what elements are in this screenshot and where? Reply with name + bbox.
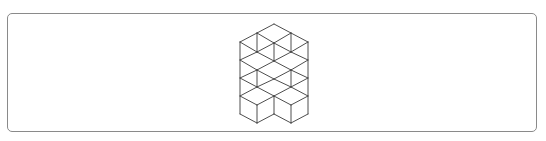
cube-edge	[257, 96, 274, 105]
cube-edge	[291, 96, 308, 105]
cube-edge	[240, 52, 257, 60]
cube-edge	[291, 70, 308, 78]
cube-edge	[291, 78, 308, 87]
cube-edge	[274, 33, 291, 43]
cube-edge	[257, 33, 274, 43]
cube-edge	[291, 42, 308, 52]
cube-edge	[291, 52, 308, 60]
cube-edge	[274, 87, 291, 96]
cube-edge	[274, 43, 291, 52]
cube-edge	[291, 114, 308, 123]
cube-edge	[240, 42, 257, 52]
cube-edge	[240, 33, 257, 42]
cube-edge	[274, 24, 291, 33]
cube-edge	[274, 96, 291, 105]
cube-edge	[291, 87, 308, 96]
cube-edge	[240, 87, 257, 96]
cube-edge	[274, 79, 291, 87]
cube-edge	[240, 60, 257, 70]
cube-edge	[240, 70, 257, 78]
cube-edge	[257, 61, 274, 70]
cube-edge	[274, 114, 291, 123]
cube-edge	[257, 24, 274, 33]
cube-edge	[274, 61, 291, 70]
cube-edge	[257, 79, 274, 87]
cube-edge	[257, 114, 274, 123]
cube-edge	[274, 70, 291, 79]
cube-edge	[240, 96, 257, 105]
cube-edge	[274, 52, 291, 61]
cube-edge	[240, 114, 257, 123]
cube-edge	[257, 52, 274, 61]
cube-edge	[240, 78, 257, 87]
isometric-cubes-figure	[0, 0, 546, 141]
cube-edge	[291, 33, 308, 42]
cube-edge	[257, 87, 274, 96]
cube-edge	[257, 43, 274, 52]
cube-edge	[291, 60, 308, 70]
cube-edge	[257, 70, 274, 79]
